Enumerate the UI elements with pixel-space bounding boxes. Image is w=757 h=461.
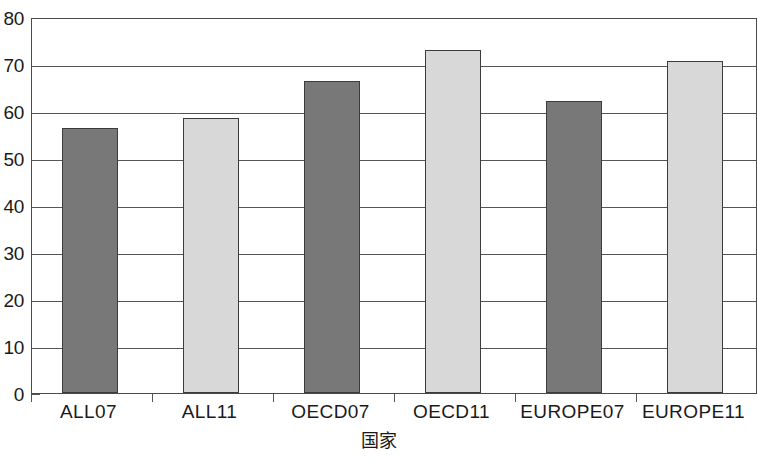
y-axis-tick-label: 80 bbox=[3, 9, 24, 28]
bar-oecd07 bbox=[304, 81, 360, 393]
bar-oecd11 bbox=[425, 50, 481, 393]
y-axis-tick-label: 60 bbox=[3, 103, 24, 122]
plot-area bbox=[31, 18, 757, 394]
bar-all11 bbox=[183, 118, 239, 393]
bars-group bbox=[32, 19, 756, 393]
x-axis-tick-label: OECD11 bbox=[413, 400, 490, 424]
x-axis-tick-label: ALL11 bbox=[182, 400, 238, 424]
x-axis-labels: ALL07ALL11OECD07OECD11EUROPE07EUROPE11 bbox=[31, 400, 757, 430]
x-axis-tick-label: OECD07 bbox=[291, 400, 369, 424]
y-axis-tick-label: 40 bbox=[3, 197, 24, 216]
bar-europe07 bbox=[546, 101, 602, 393]
y-axis: 01020304050607080 bbox=[0, 0, 31, 461]
x-axis-tick-label: EUROPE07 bbox=[520, 400, 625, 424]
x-axis-tick-label: ALL07 bbox=[60, 400, 117, 424]
y-axis-tick-label: 50 bbox=[3, 150, 24, 169]
bar-europe11 bbox=[667, 61, 723, 393]
x-axis-title: 国家 bbox=[0, 430, 757, 452]
x-axis-tick-label: EUROPE11 bbox=[642, 400, 745, 424]
y-axis-tick-label: 10 bbox=[3, 338, 24, 357]
y-axis-tick-label: 20 bbox=[3, 291, 24, 310]
y-axis-tick-label: 70 bbox=[3, 56, 24, 75]
bar-chart: 01020304050607080 ALL07ALL11OECD07OECD11… bbox=[0, 0, 757, 461]
bar-all07 bbox=[62, 128, 118, 393]
y-axis-tick-label: 30 bbox=[3, 244, 24, 263]
y-axis-tick-label: 0 bbox=[14, 385, 24, 404]
